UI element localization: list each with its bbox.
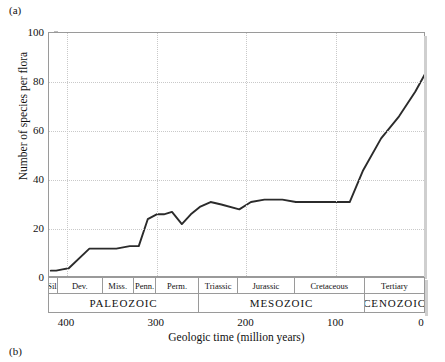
period-cell: Triassic xyxy=(199,278,238,293)
x-axis-ticks: 4003002001000 xyxy=(48,316,425,332)
panel-label-b: (b) xyxy=(9,345,22,357)
period-cell: Miss. xyxy=(103,278,134,293)
period-cell: Sil. xyxy=(49,278,58,293)
era-cell: MESOZOIC xyxy=(199,294,365,312)
era-cell: CENOZOIC xyxy=(365,294,424,312)
y-tick-label: 20 xyxy=(14,222,44,234)
y-axis-label: Number of species per flora xyxy=(17,16,29,216)
period-cell: Perm. xyxy=(156,278,199,293)
x-tick-label: 300 xyxy=(147,316,164,328)
x-tick-label: 0 xyxy=(418,316,424,328)
x-tick-label: 200 xyxy=(237,316,254,328)
stratigraphic-band: Sil.Dev.Miss.Penn.Perm.TriassicJurassicC… xyxy=(48,277,425,313)
plot-area xyxy=(48,32,425,277)
era-cell: PALEOZOIC xyxy=(49,294,199,312)
x-tick-label: 100 xyxy=(327,316,344,328)
period-cell: Penn. xyxy=(134,278,156,293)
period-cell: Jurassic xyxy=(238,278,294,293)
data-line-series xyxy=(49,33,426,278)
geologic-era-row: PALEOZOICMESOZOICCENOZOIC xyxy=(48,294,425,313)
y-tick-label: 0 xyxy=(14,271,44,283)
geologic-period-row: Sil.Dev.Miss.Penn.Perm.TriassicJurassicC… xyxy=(48,277,425,294)
period-cell: Tertiary xyxy=(365,278,424,293)
period-cell: Cretaceous xyxy=(295,278,366,293)
x-axis-label: Geologic time (million years) xyxy=(48,331,425,343)
panel-label-a: (a) xyxy=(9,4,21,16)
x-tick-label: 400 xyxy=(58,316,75,328)
period-cell: Dev. xyxy=(58,278,103,293)
